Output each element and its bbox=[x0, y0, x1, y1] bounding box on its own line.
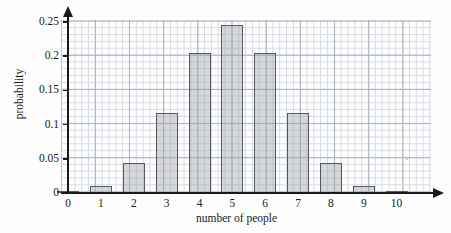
x-tick-label-2: 2 bbox=[121, 197, 147, 209]
x-tick-label-3: 3 bbox=[154, 197, 180, 209]
y-tick-label-0.2: 0.2 bbox=[0, 50, 59, 62]
x-tick-label-7: 7 bbox=[285, 197, 311, 209]
x-tick-label-0: 0 bbox=[55, 197, 81, 209]
y-tick-label-0: 0 bbox=[0, 187, 59, 199]
y-tick-0.1 bbox=[63, 124, 69, 126]
x-axis-line bbox=[61, 192, 436, 194]
x-tick-label-6: 6 bbox=[252, 197, 278, 209]
x-tick-label-1: 1 bbox=[88, 197, 114, 209]
x-axis-title-text: number of people bbox=[174, 212, 277, 224]
y-axis-line bbox=[67, 14, 69, 194]
x-tick-label-4: 4 bbox=[187, 197, 213, 209]
y-tick-0 bbox=[63, 192, 69, 194]
bar-series bbox=[61, 20, 431, 193]
y-axis-arrow-icon bbox=[63, 6, 73, 17]
bar-8 bbox=[320, 163, 342, 193]
y-tick-label-0.05: 0.05 bbox=[0, 153, 59, 165]
bar-3 bbox=[156, 113, 178, 193]
y-tick-0.2 bbox=[63, 55, 69, 57]
y-tick-label-0.25: 0.25 bbox=[0, 16, 59, 28]
bar-6 bbox=[254, 53, 276, 193]
y-tick-label-0.15: 0.15 bbox=[0, 84, 59, 96]
y-tick-0.25 bbox=[63, 21, 69, 23]
plot-area bbox=[61, 20, 431, 193]
x-axis-title: number of people bbox=[0, 212, 451, 224]
y-tick-label-0.1: 0.1 bbox=[0, 119, 59, 131]
bar-7 bbox=[287, 113, 309, 193]
bar-4 bbox=[189, 53, 211, 193]
x-axis-arrow-icon bbox=[433, 188, 444, 198]
x-tick-label-9: 9 bbox=[351, 197, 377, 209]
x-tick-label-8: 8 bbox=[318, 197, 344, 209]
y-tick-0.15 bbox=[63, 90, 69, 92]
paper-speck bbox=[406, 158, 408, 160]
x-tick-label-5: 5 bbox=[219, 197, 245, 209]
bar-5 bbox=[221, 25, 243, 193]
bar-2 bbox=[123, 163, 145, 193]
y-axis-title: probability bbox=[13, 39, 25, 149]
x-tick-label-10: 10 bbox=[384, 197, 410, 209]
y-tick-0.05 bbox=[63, 158, 69, 160]
chart-figure: 00.050.10.150.20.25 012345678910 number … bbox=[0, 0, 451, 233]
